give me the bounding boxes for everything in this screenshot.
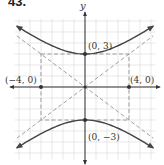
point-label-left: (−4, 0) <box>5 75 37 85</box>
point-label-bottom: (0, −3) <box>88 132 120 142</box>
point-label-top: (0, 3) <box>88 41 112 51</box>
point-label-right: (4, 0) <box>130 75 154 85</box>
y-axis-label: y <box>79 0 86 11</box>
hyperbola-graph: y (0, 3) (0, −3) (−4, 0) (4, 0) <box>0 0 164 165</box>
